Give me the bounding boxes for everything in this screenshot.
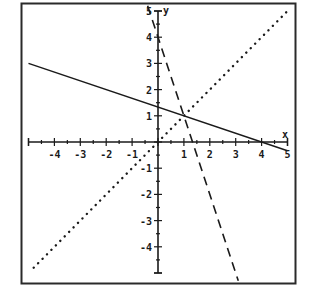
y-tick-label: -1 [140,163,152,174]
x-tick-label: 2 [207,149,213,160]
x-tick-label: 3 [233,149,239,160]
x-tick-label: 5 [284,149,290,160]
dashed-line [148,6,239,281]
x-tick-label: -2 [100,149,112,160]
y-axis-label: y [163,5,169,16]
dotted-line [34,11,288,268]
y-tick-label: 2 [146,85,152,96]
y-tick-label: -4 [140,242,152,253]
function-graph: -4-3-2-11234554321-1-2-3-4 x y [0,0,314,301]
y-tick-label: 5 [146,6,152,17]
y-tick-label: -3 [140,216,152,227]
x-tick-label: -1 [126,149,138,160]
x-tick-label: -4 [48,149,60,160]
y-tick-label: 3 [146,58,152,69]
x-tick-label: 4 [259,149,265,160]
y-tick-label: 1 [146,111,152,122]
x-tick-label: 1 [181,149,187,160]
x-axis-label: x [282,129,288,140]
y-tick-label: 4 [146,32,152,43]
y-tick-label: -2 [140,189,152,200]
x-tick-label: -3 [74,149,86,160]
